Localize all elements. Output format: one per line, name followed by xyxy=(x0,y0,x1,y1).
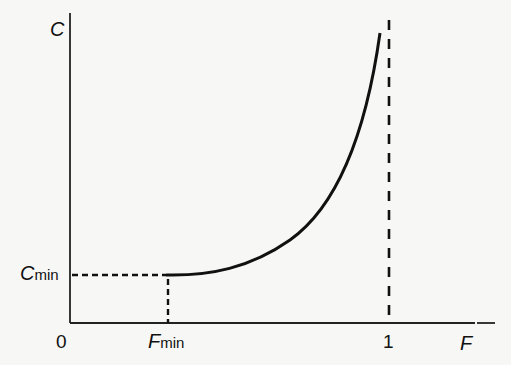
c-min-main: C xyxy=(20,262,34,284)
y-axis-label: C xyxy=(50,18,64,41)
c-min-label: Cmin xyxy=(20,262,59,285)
f-min-label: Fmin xyxy=(148,330,184,353)
f-min-sub: min xyxy=(160,334,184,351)
f-min-main: F xyxy=(148,330,160,352)
tick-one-label: 1 xyxy=(383,331,394,353)
origin-label: 0 xyxy=(56,331,67,353)
x-axis-label: F xyxy=(460,332,472,355)
cost-curve xyxy=(166,33,380,275)
c-min-sub: min xyxy=(34,266,58,283)
chart-canvas xyxy=(0,0,511,365)
